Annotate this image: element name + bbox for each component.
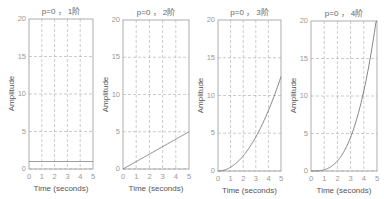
y-tick-label: 0: [304, 166, 308, 175]
y-tick-label: 15: [300, 54, 308, 63]
x-tick-label: 4: [362, 174, 366, 183]
chart-title-4: p=0 ， 4阶: [311, 7, 377, 18]
y-tick-label: 10: [300, 91, 308, 100]
x-axis-label: Time (seconds): [301, 186, 384, 195]
x-tick-label: 3: [349, 174, 353, 183]
x-tick-label: 1: [322, 174, 326, 183]
x-tick-label: 5: [375, 174, 379, 183]
y-tick-label: 20: [300, 16, 308, 25]
x-tick-label: 0: [309, 174, 313, 183]
plot-area-4: [0, 0, 384, 199]
x-tick-label: 2: [335, 174, 339, 183]
y-tick-label: 5: [304, 129, 308, 138]
y-axis-label: Amplitude: [289, 66, 298, 126]
